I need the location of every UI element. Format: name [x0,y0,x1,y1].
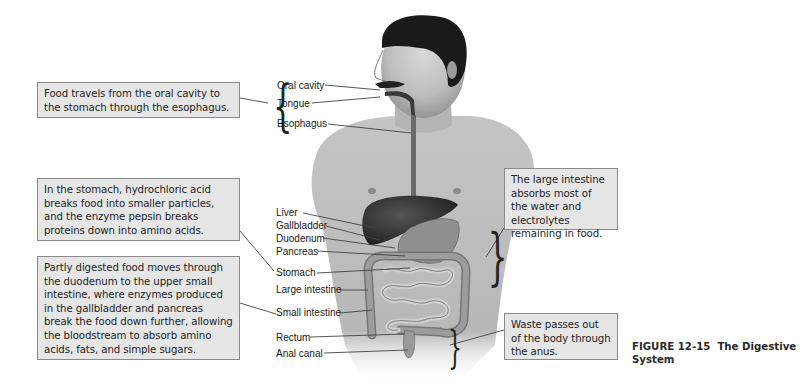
bracket-large-intestine: } [488,226,508,288]
callout-large-intestine: The large intestine absorbs most of the … [504,168,618,230]
rectum-shape [403,330,414,358]
figure-caption: FIGURE 12-15 The Digestive System [632,340,797,366]
esophagus-shape [411,115,416,210]
label-tongue: Tongue [277,98,310,110]
callout-small-intestine: Partly digested food moves through the d… [37,256,240,360]
label-gallbladder: Gallbladder [276,220,327,232]
label-large-intestine: Large intestine [276,284,342,296]
bracket-rectum: } [448,326,462,370]
label-rectum: Rectum [276,332,310,344]
label-liver: Liver [276,207,298,219]
label-duodenum: Duodenum [276,233,325,245]
label-pancreas: Pancreas [276,246,318,258]
callout-stomach: In the stomach, hydrochloric acid breaks… [37,178,240,241]
callout-esophagus: Food travels from the oral cavity to the… [37,82,240,118]
label-stomach: Stomach [276,267,315,279]
label-small-intestine: Small intestine [276,307,341,319]
label-esophagus: Esophagus [277,118,327,130]
label-oral-cavity: Oral cavity [277,80,324,92]
callout-waste: Waste passes out of the body through the… [504,313,618,360]
label-anal-canal: Anal canal [276,348,323,360]
figure-number: FIGURE 12-15 [632,341,710,352]
